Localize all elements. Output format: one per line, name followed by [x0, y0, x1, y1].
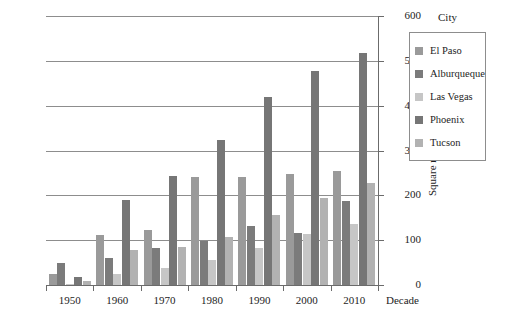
y-tick-mark: [379, 106, 384, 107]
x-axis-line: [46, 285, 379, 286]
x-tick-mark: [93, 286, 94, 291]
legend-item-alburqueque[interactable]: Alburqueque: [415, 62, 481, 85]
bar: [255, 248, 263, 285]
bar: [238, 177, 246, 285]
y-tick-label: 0: [387, 279, 421, 290]
bar: [74, 277, 82, 285]
bar: [294, 233, 302, 285]
y-tick-mark: [379, 61, 384, 62]
bar: [311, 71, 319, 285]
bar-group: [144, 16, 186, 285]
bar: [105, 258, 113, 285]
bar-group: [191, 16, 233, 285]
y-tick-label: 100: [387, 234, 421, 245]
bar-group: [286, 16, 328, 285]
y-tick-mark: [379, 16, 384, 17]
bar-group: [333, 16, 375, 285]
bar: [342, 201, 350, 285]
bar: [130, 250, 138, 285]
bar: [264, 97, 272, 285]
bar: [217, 140, 225, 285]
legend-swatch-icon: [415, 70, 423, 78]
bar-group: [238, 16, 280, 285]
bar: [272, 215, 280, 285]
legend-item-el-paso[interactable]: El Paso: [415, 39, 481, 62]
bar-chart: 0100200300400500600 19501960197019801990…: [0, 0, 511, 323]
bar: [225, 237, 233, 285]
bar: [333, 171, 341, 285]
x-tick-mark: [236, 286, 237, 291]
x-tick-mark: [283, 286, 284, 291]
y-tick-label: 200: [387, 189, 421, 200]
bar: [161, 268, 169, 285]
bar: [57, 263, 65, 285]
plot-area: [46, 16, 378, 285]
legend-swatch-icon: [415, 93, 423, 101]
legend-swatch-icon: [415, 139, 423, 147]
y-tick-mark: [379, 195, 384, 196]
legend-title: City: [409, 11, 486, 23]
bar: [191, 177, 199, 285]
bar: [359, 53, 367, 285]
bar: [144, 230, 152, 285]
bar: [286, 174, 294, 285]
y-tick-mark: [379, 285, 384, 286]
bar: [49, 274, 57, 285]
bar: [350, 224, 358, 285]
legend-label: Phoenix: [430, 114, 464, 125]
bar: [122, 200, 130, 285]
bar: [178, 247, 186, 285]
x-axis-title: Decade: [386, 294, 419, 306]
x-tick-mark: [46, 286, 47, 291]
bar: [303, 234, 311, 285]
x-tick-mark: [141, 286, 142, 291]
bar: [152, 248, 160, 285]
bar: [320, 198, 328, 285]
legend-item-tucson[interactable]: Tucson: [415, 131, 481, 154]
y-tick-mark: [379, 151, 384, 152]
bar: [96, 235, 104, 285]
bar: [200, 241, 208, 285]
bar: [247, 226, 255, 285]
legend: El PasoAlburquequeLas VegasPhoenixTucson: [409, 32, 486, 161]
legend-label: Tucson: [430, 137, 461, 148]
legend-label: El Paso: [430, 45, 462, 56]
bar: [367, 183, 375, 285]
x-tick-mark: [188, 286, 189, 291]
x-tick-mark: [331, 286, 332, 291]
x-tick-mark: [378, 286, 379, 291]
legend-item-las-vegas[interactable]: Las Vegas: [415, 85, 481, 108]
bar: [113, 274, 121, 285]
legend-swatch-icon: [415, 116, 423, 124]
bar-group: [96, 16, 138, 285]
y-tick-mark: [379, 240, 384, 241]
legend-label: Alburqueque: [430, 68, 485, 79]
x-tick-label: 2010: [324, 294, 384, 306]
legend-swatch-icon: [415, 47, 423, 55]
bar-group: [49, 16, 91, 285]
legend-label: Las Vegas: [430, 91, 473, 102]
legend-item-phoenix[interactable]: Phoenix: [415, 108, 481, 131]
bar: [169, 176, 177, 285]
bar: [208, 260, 216, 285]
